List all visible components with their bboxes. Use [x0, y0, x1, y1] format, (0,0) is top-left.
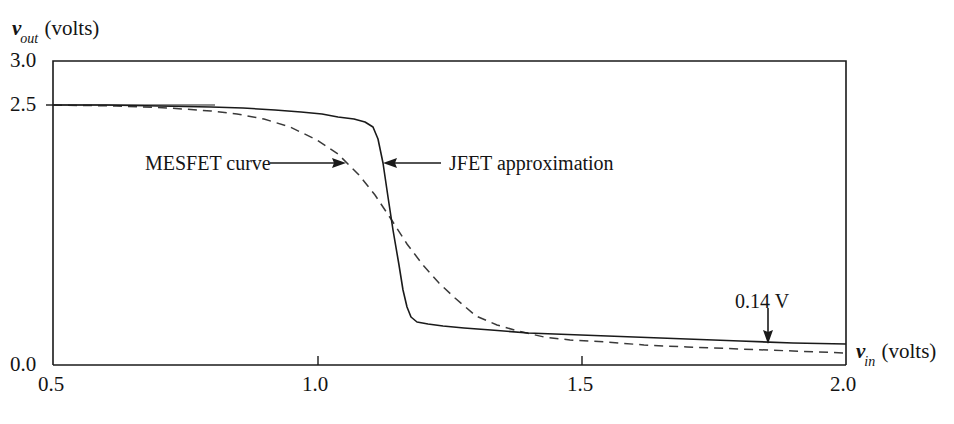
figure-transfer-characteristic: vout (volts) vin (volts) 3.0 2.5 0.0 0.5… — [0, 0, 954, 424]
plot-canvas — [0, 0, 954, 424]
series-mesfet-curve — [53, 105, 846, 353]
annotation-arrow-mesfet — [270, 158, 346, 168]
series-jfet-approximation — [53, 105, 846, 344]
annotation-arrow-jfet — [383, 158, 441, 168]
annotation-arrow-offset-voltage — [763, 308, 773, 344]
